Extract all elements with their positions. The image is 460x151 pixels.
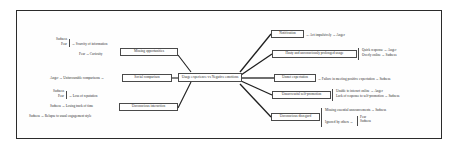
emotions-ignored-by-others: Fear Sadness xyxy=(360,116,371,125)
cause-curiosity-row: Fear→Curiosity xyxy=(79,52,102,57)
effect-row: Lack of response to self-promotion→Sadne… xyxy=(336,94,399,99)
trigger-curiosity: Curiosity xyxy=(90,52,103,56)
effects-hasty-usage: Quick response→Anger Overly online→Sadne… xyxy=(362,48,396,59)
edge-center-unsuccessful-self-promotion xyxy=(241,81,272,95)
effect-notification-row: →Act impulsively→Anger xyxy=(305,33,345,38)
node-label: Usage experience vs Negative emotions xyxy=(182,76,239,80)
concept-map-figure: Sadness Fear →Scarcity of information Fe… xyxy=(0,0,460,151)
node-label: Social comparison xyxy=(134,76,159,80)
edge-missing-opportunities-center xyxy=(178,55,191,72)
brace-scarcity-of-information xyxy=(69,39,70,47)
emotion-label: Sadness xyxy=(360,120,371,124)
arrow-icon: → xyxy=(100,76,105,80)
trigger-losing-track-of-time: Losing track of time xyxy=(66,104,94,108)
cause-unfavourable-comparisons-row: Anger→Unfavourable comparisons→ xyxy=(50,76,105,81)
trigger-loss-of-reputation: →Loss of reputation xyxy=(68,94,97,99)
trigger-relapse-to-usual-engagement-style: Relapse to usual engagement style xyxy=(45,114,92,118)
cause-relapse-usual-engagement-row: Sadness→Relapse to usual engagement styl… xyxy=(29,114,91,119)
outcome-label: Failure in meeting positive expectation xyxy=(322,77,375,81)
trigger-unfavourable-comparisons: Unfavourable comparisons xyxy=(63,76,100,80)
emotion-label: Sadness xyxy=(29,114,40,118)
node-missing-opportunities[interactable]: Missing opportunities xyxy=(120,48,178,56)
emotion-label: Fear xyxy=(61,43,67,47)
emotions-loss-of-reputation: Sadness Fear xyxy=(46,90,64,99)
emotions-scarcity-of-information: Sadness Fear xyxy=(49,38,67,47)
node-unconscious-interaction[interactable]: Unconscious interaction xyxy=(119,103,178,111)
effect-row: Quick response→Anger xyxy=(362,48,396,53)
effect-row: Overly online→Sadness xyxy=(362,53,396,58)
brace-unconscious-disregard-effects xyxy=(321,108,322,127)
brace-ignored-by-others xyxy=(357,116,358,126)
emotion-label: Anger xyxy=(336,33,344,37)
edge-center-notification xyxy=(240,34,271,72)
brace-hasty-usage-effects xyxy=(358,48,359,60)
edge-center-unconscious-disregard xyxy=(240,84,271,117)
effect-missing-announcements-row: Missing essential announcements→Sadness xyxy=(325,108,386,113)
brace-self-promotion-effects xyxy=(332,89,333,101)
cause-losing-track-of-time-row: Sadness→Losing track of time xyxy=(50,104,93,109)
node-unconscious-disregard[interactable]: Unconscious disregard xyxy=(271,113,320,121)
outcome-label: Act impulsively xyxy=(310,33,332,37)
emotion-label: Sadness xyxy=(379,77,390,81)
effect-unmet-expectation-row: →Failure in meeting positive expectation… xyxy=(317,77,390,82)
emotion-label: Sadness xyxy=(375,108,386,112)
node-notification[interactable]: Notification xyxy=(271,30,304,38)
node-unmet-expectation[interactable]: Unmet expectation xyxy=(274,74,316,82)
emotion-label: Sadness xyxy=(50,104,61,108)
node-hasty-and-prolonged-usage[interactable]: Hasty and unconsciously prolonged usage xyxy=(272,50,357,58)
node-label: Hasty and unconsciously prolonged usage xyxy=(286,52,344,56)
trigger-scarcity-of-information: →Scarcity of information xyxy=(71,42,107,47)
node-unsuccessful-self-promotion[interactable]: Unsuccessful self-promotion xyxy=(272,91,331,99)
node-center-usage-experience[interactable]: Usage experience vs Negative emotions xyxy=(178,73,242,82)
node-label: Unconscious disregard xyxy=(280,115,311,119)
node-label: Unconscious interaction xyxy=(132,105,165,109)
node-social-comparison[interactable]: Social comparison xyxy=(122,74,172,82)
outcome-label: Missing essential announcements xyxy=(325,108,370,112)
node-label: Missing opportunities xyxy=(134,50,164,54)
node-label: Unmet expectation xyxy=(282,76,308,80)
edge-unconscious-interaction-center xyxy=(178,82,191,108)
arrow-icon: → xyxy=(349,120,354,124)
brace-loss-of-reputation xyxy=(66,91,67,99)
node-label: Notification xyxy=(279,32,296,36)
emotion-label: Fear xyxy=(58,95,64,99)
outcome-ignored-by-others: Ignored by others→ xyxy=(325,120,354,125)
node-label: Unsuccessful self-promotion xyxy=(282,93,322,97)
effect-row: Unable to interact online→Anger xyxy=(336,89,383,94)
effects-unsuccessful-self-promotion: Unable to interact online→Anger Lack of … xyxy=(336,89,399,100)
